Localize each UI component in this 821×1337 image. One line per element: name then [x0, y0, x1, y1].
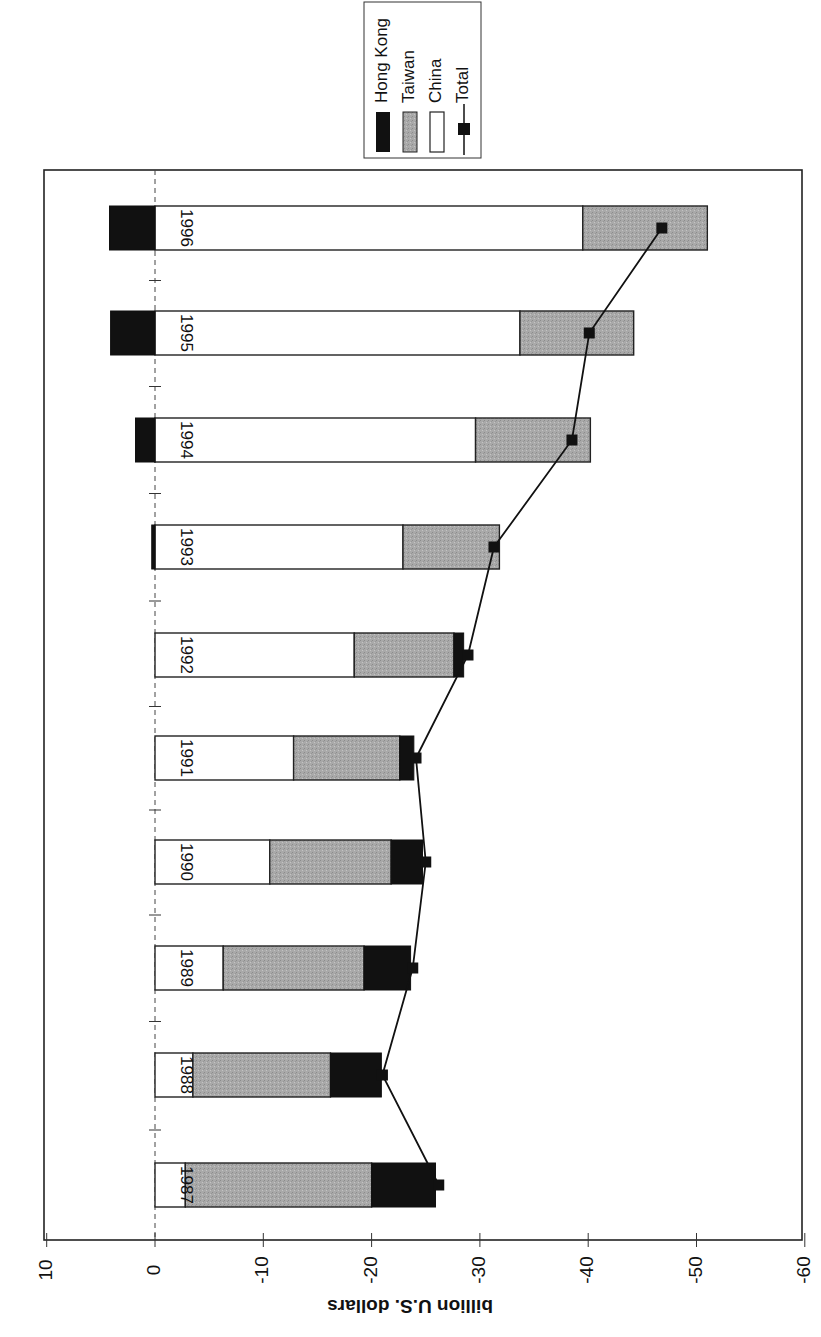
bar-1989: 1989 [155, 946, 411, 990]
bar-segment-china [155, 418, 476, 462]
total-marker [377, 1070, 388, 1081]
legend-swatch [430, 112, 444, 152]
total-marker [566, 435, 577, 446]
bar-segment-taiwan [520, 311, 634, 355]
bar-segment-hong-kong [136, 418, 155, 462]
bar-segment-taiwan [403, 525, 499, 569]
bar-1991: 1991 [155, 736, 414, 780]
bar-segment-china [155, 311, 520, 355]
bar-1987: 1987 [155, 1163, 435, 1207]
bar-1996: 1996 [110, 206, 708, 250]
year-label: 1995 [177, 314, 196, 352]
legend-swatch [403, 112, 417, 152]
bar-segment-taiwan [270, 840, 391, 884]
bar-segment-taiwan [193, 1053, 331, 1097]
bar-1993: 1993 [152, 525, 500, 569]
bar-1992: 1992 [155, 633, 464, 677]
axis-title: billion U.S. dollars [327, 1296, 493, 1317]
bar-segment-china [155, 206, 583, 250]
total-marker [407, 963, 418, 974]
bar-segment-taiwan [354, 633, 454, 677]
legend: Hong KongTaiwanChinaTotal [364, 2, 481, 158]
value-tick-label: -10 [251, 1256, 272, 1283]
value-tick-label: -20 [360, 1256, 381, 1283]
year-label: 1988 [177, 1056, 196, 1094]
total-marker [433, 1180, 444, 1191]
year-label: 1989 [177, 949, 196, 987]
total-marker [584, 328, 595, 339]
year-label: 1993 [177, 528, 196, 566]
legend-label: Taiwan [399, 50, 418, 103]
bar-segment-china [155, 840, 270, 884]
bar-1990: 1990 [155, 840, 423, 884]
value-tick-label: -40 [576, 1256, 597, 1283]
value-tick-label: 0 [143, 1265, 164, 1276]
total-marker [462, 650, 473, 661]
legend-swatch-marker [458, 123, 470, 135]
legend-swatch [376, 112, 390, 152]
bar-segment-hong-kong [110, 206, 155, 250]
bar-segment-taiwan [294, 736, 400, 780]
bar-segment-taiwan [185, 1163, 371, 1207]
bar-segment-hong-kong [330, 1053, 381, 1097]
stacked-bar-chart: 1987198819891990199119921993199419951996… [0, 0, 821, 1337]
bar-segment-taiwan [583, 206, 708, 250]
bar-1994: 1994 [136, 418, 591, 462]
year-label: 1994 [177, 421, 196, 459]
year-label: 1990 [177, 843, 196, 881]
total-marker [420, 857, 431, 868]
year-label: 1996 [177, 209, 196, 247]
bar-1995: 1995 [111, 311, 634, 355]
year-label: 1992 [177, 636, 196, 674]
legend-label: Total [453, 67, 472, 103]
legend-label: China [426, 58, 445, 103]
year-label: 1987 [177, 1166, 196, 1204]
bar-segment-hong-kong [391, 840, 422, 884]
bar-segment-taiwan [223, 946, 364, 990]
value-tick-label: 10 [35, 1259, 56, 1280]
legend-label: Hong Kong [372, 18, 391, 103]
bar-segment-hong-kong [152, 525, 155, 569]
bar-segment-hong-kong [111, 311, 155, 355]
bar-segment-hong-kong [454, 633, 464, 677]
total-marker [411, 753, 422, 764]
total-marker [656, 223, 667, 234]
value-tick-label: -50 [685, 1256, 706, 1283]
bar-segment-hong-kong [364, 946, 411, 990]
bar-segment-hong-kong [372, 1163, 436, 1207]
bar-segment-china [155, 736, 294, 780]
value-tick-label: -60 [793, 1256, 814, 1283]
total-marker [488, 542, 499, 553]
value-tick-label: -30 [468, 1256, 489, 1283]
bar-1988: 1988 [155, 1053, 381, 1097]
year-label: 1991 [177, 739, 196, 777]
